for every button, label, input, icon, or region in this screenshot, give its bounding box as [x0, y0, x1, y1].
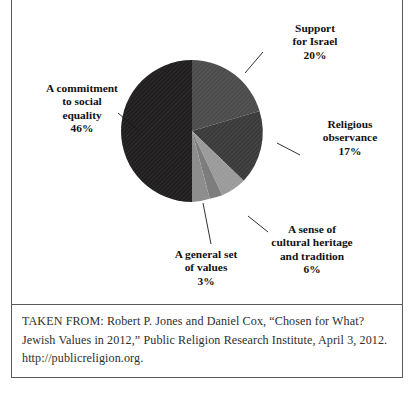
pie-label-line-1: Support: [295, 22, 335, 34]
pie-label-line-2: of values: [185, 261, 228, 273]
pie-label-line-2: to social: [62, 95, 102, 107]
pie-label-social-equality: A commitment to social equality 46%: [26, 82, 138, 136]
caption-divider: [12, 304, 402, 305]
pie-label-value: 20%: [265, 49, 365, 62]
pie-label-religious-observance: Religious observance 17%: [300, 118, 400, 158]
pie-label-line-2: cultural heritage: [271, 236, 352, 248]
pie-label-cultural-heritage: A sense of cultural heritage and traditi…: [250, 223, 374, 277]
pie-label-general-values: A general set of values 3%: [154, 248, 258, 288]
caption-line-2: Jewish Values in 2012,” Public Religion …: [22, 333, 387, 347]
pie-label-value: 17%: [300, 145, 400, 158]
figure-frame: Support for Israel 20% Religious observa…: [11, 0, 403, 378]
pie-label-line-1: A sense of: [288, 223, 336, 235]
pie-label-value: 6%: [250, 263, 374, 276]
leader-line-religious-observance: [277, 143, 300, 155]
pie-slices: [121, 60, 263, 202]
pie-label-line-3: equality: [62, 109, 101, 121]
pie-label-value: 3%: [154, 275, 258, 288]
pie-label-line-3: and tradition: [280, 250, 344, 262]
pie-label-line-2: for Israel: [292, 35, 337, 47]
pie-chart: Support for Israel 20% Religious observa…: [12, 0, 402, 305]
pie-label-line-1: A general set: [175, 248, 238, 260]
pie-label-support-for-israel: Support for Israel 20%: [265, 22, 365, 62]
leader-line-support-for-israel: [245, 52, 263, 73]
caption-line-3[interactable]: http://publicreligion.org.: [22, 351, 143, 365]
pie-label-line-1: A commitment: [46, 82, 118, 94]
pie-label-line-1: Religious: [328, 118, 373, 130]
pie-label-value: 46%: [26, 122, 138, 135]
caption-line-1: TAKEN FROM: Robert P. Jones and Daniel C…: [22, 314, 364, 328]
pie-label-line-2: observance: [323, 131, 377, 143]
leader-line-general-values: [203, 203, 211, 244]
source-caption: TAKEN FROM: Robert P. Jones and Daniel C…: [22, 312, 394, 368]
